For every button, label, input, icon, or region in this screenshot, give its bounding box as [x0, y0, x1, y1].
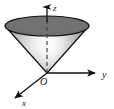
cone-diagram-canvas: z y x O	[0, 0, 114, 109]
cone-diagram-figure: z y x O	[0, 0, 114, 109]
origin-label: O	[40, 76, 47, 87]
y-axis-label: y	[101, 69, 107, 80]
x-axis-label: x	[21, 98, 26, 108]
z-axis-label: z	[52, 3, 57, 13]
